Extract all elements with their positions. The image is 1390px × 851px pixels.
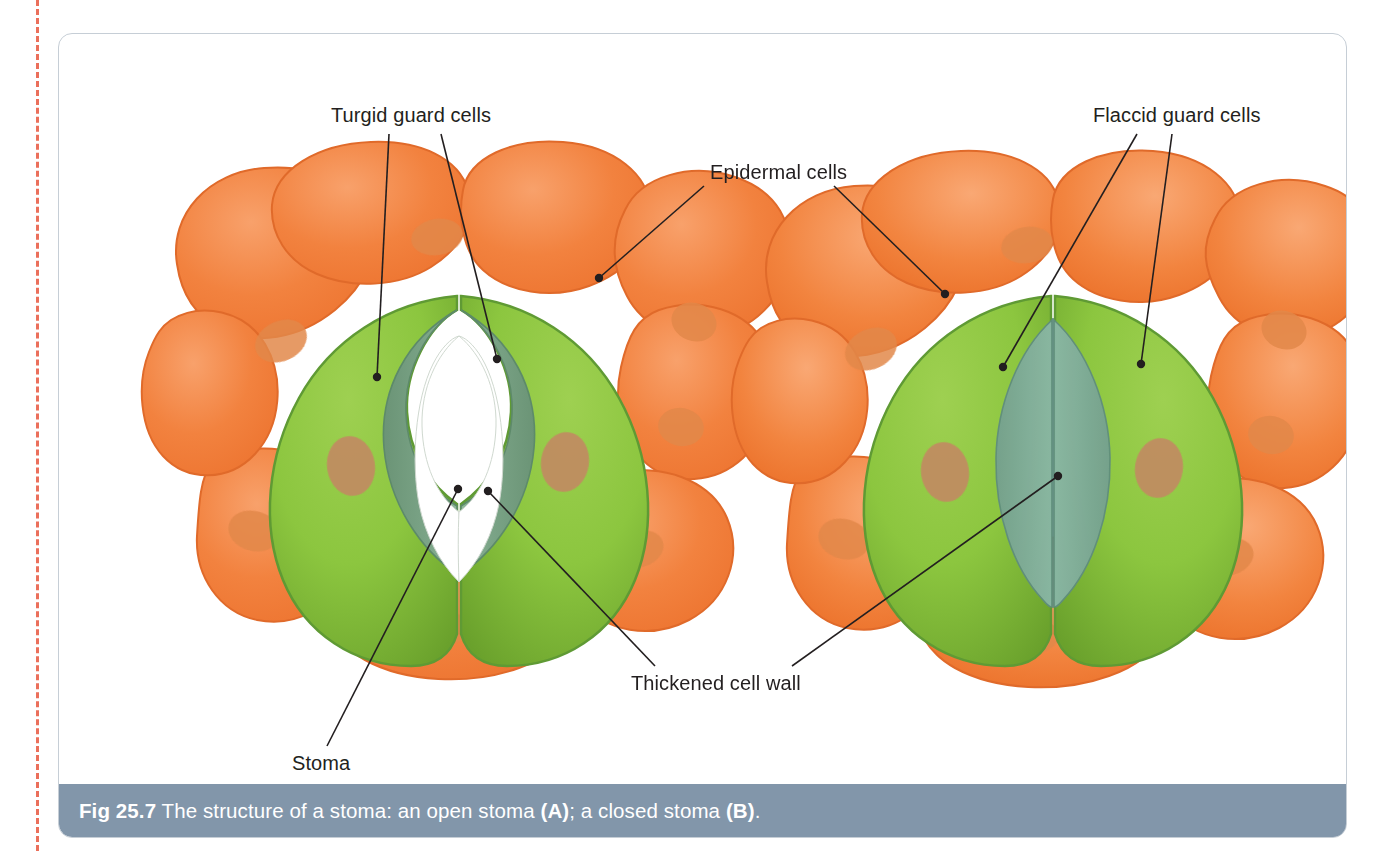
epidermal-cell (862, 151, 1061, 293)
epidermal-cell (142, 311, 278, 476)
open-stoma-diagram (142, 141, 790, 679)
leader-endpoint (1138, 361, 1145, 368)
leader-endpoint (596, 275, 603, 282)
leader-endpoint (455, 486, 462, 493)
leader-endpoint (485, 488, 492, 495)
label-flaccid-guard-cells: Flaccid guard cells (1093, 104, 1261, 127)
caption-ref-a: (A) (540, 799, 569, 822)
figure-caption-bar: Fig 25.7 The structure of a stoma: an op… (59, 784, 1347, 837)
figure-caption-text: Fig 25.7 The structure of a stoma: an op… (79, 799, 760, 823)
epidermal-cell (272, 142, 471, 284)
caption-ref-b: (B) (726, 799, 755, 822)
leader-endpoint (1055, 473, 1062, 480)
label-turgid-guard-cells: Turgid guard cells (331, 104, 491, 127)
caption-mid: ; a closed stoma (569, 799, 726, 822)
label-epidermal-cells: Epidermal cells (710, 161, 847, 184)
caption-body: The structure of a stoma: an open stoma (156, 799, 540, 822)
figure-box: Turgid guard cells Epidermal cells Flacc… (58, 33, 1347, 838)
leader-endpoint (942, 291, 949, 298)
closed-stoma-diagram (732, 150, 1347, 687)
leader-endpoint (494, 356, 501, 363)
leader-endpoint (374, 374, 381, 381)
trim-dashed-line (36, 0, 39, 851)
label-stoma: Stoma (292, 752, 350, 775)
leader-endpoint (1000, 364, 1007, 371)
diagram-artwork: Turgid guard cells Epidermal cells Flacc… (59, 34, 1347, 786)
epidermal-cell (732, 319, 868, 484)
label-thickened-cell-wall: Thickened cell wall (631, 672, 801, 695)
figure-page: Turgid guard cells Epidermal cells Flacc… (0, 0, 1390, 851)
figure-number: Fig 25.7 (79, 799, 156, 822)
caption-end: . (755, 799, 761, 822)
